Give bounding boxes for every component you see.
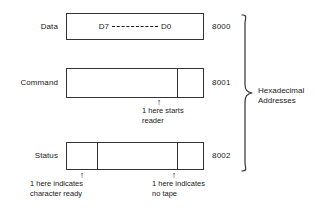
data-bit-range: D7 D0	[67, 14, 203, 39]
data-bit-dashed-separator	[112, 26, 158, 28]
status-bit-divider-left	[97, 143, 98, 169]
data-bit-high-label: D7	[99, 22, 109, 31]
data-bit-low-label: D0	[161, 22, 171, 31]
status-bit-divider-right	[177, 143, 178, 169]
address-label-8000: 8000	[212, 22, 231, 31]
status-register-box	[66, 142, 204, 170]
up-arrow-icon: ↑	[30, 172, 134, 179]
annotation-status-no-tape: ↑ 1 here indicates no tape	[152, 172, 272, 198]
up-arrow-icon: ↑	[152, 172, 196, 179]
up-arrow-icon: ↑	[140, 99, 178, 106]
annotation-line-2: character ready	[30, 189, 150, 199]
annotation-line-1: 1 here indicates	[152, 179, 272, 189]
brace-label-line-1: Hexadecimal	[258, 86, 304, 96]
address-label-8002: 8002	[212, 151, 231, 160]
row-label-data: Data	[10, 22, 58, 31]
annotation-line-1: 1 here indicates	[30, 179, 150, 189]
row-label-command: Command	[4, 78, 58, 87]
register-map-diagram: Data D7 D0 8000 Command 8001 ↑ 1 here st…	[0, 0, 317, 212]
command-bit-divider	[177, 69, 178, 97]
address-label-8001: 8001	[212, 78, 231, 87]
brace-label-line-2: Addresses	[258, 96, 304, 106]
brace-label-hexadecimal-addresses: Hexadecimal Addresses	[258, 86, 304, 106]
annotation-status-character-ready: ↑ 1 here indicates character ready	[30, 172, 150, 198]
command-register-box	[66, 68, 204, 98]
hexadecimal-addresses-brace	[240, 14, 256, 172]
brace-icon	[240, 14, 256, 172]
data-register-box: D7 D0	[66, 13, 204, 40]
annotation-line-2: no tape	[152, 189, 272, 199]
row-label-status: Status	[10, 151, 58, 160]
